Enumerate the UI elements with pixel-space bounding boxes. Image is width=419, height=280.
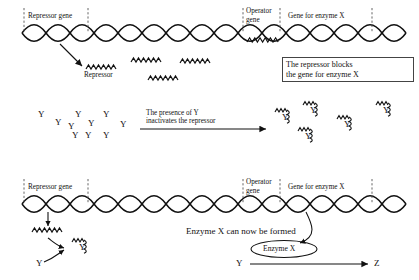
label-complex-y-bottom: Y [79, 243, 86, 252]
label-repressor-top: Repressor [84, 72, 113, 80]
free-y-molecule: Y [55, 118, 62, 127]
label-gene-for-enzyme-x-bottom: Gene for enzyme X [288, 184, 344, 192]
dna-helix-top [22, 25, 406, 42]
free-y-molecule: Y [85, 131, 92, 140]
diagram-canvas: Repressor gene Operator gene Gene for en… [0, 0, 419, 280]
complex-y-label: Y [305, 132, 312, 141]
enzyme-formation-arrow [300, 212, 312, 243]
free-repressor-3 [180, 59, 210, 63]
free-y-molecule: Y [103, 131, 110, 140]
caption-enzyme-x-formed: Enzyme X can now be formed [186, 228, 296, 236]
free-y-molecule: Y [38, 110, 45, 119]
label-repressor-gene-top: Repressor gene [28, 13, 72, 21]
inactivated-complex-icons [275, 102, 390, 143]
free-y-molecule: Y [88, 119, 95, 128]
complex-y-label: Y [310, 106, 317, 115]
reaction-substrate-label: Y [236, 259, 243, 268]
label-operator-gene-top-line1: Operator [246, 8, 272, 16]
dna-helix-bottom [22, 196, 406, 213]
label-operator-gene-bottom-line2: gene [246, 188, 260, 196]
repressor-bound-operator-icon [247, 38, 278, 42]
binding-arrows-bottom [44, 238, 64, 262]
free-repressor-2 [131, 58, 161, 62]
free-y-molecule: Y [120, 120, 127, 129]
callout-repressor-blocks: The repressor blocks the gene for enzyme… [282, 57, 414, 82]
free-y-molecule: Y [103, 110, 110, 119]
enzyme-x-bubble-label: Enzyme X [263, 245, 295, 253]
complex-y-label: Y [344, 120, 351, 129]
arrow-caption-line-2: inactivates the repressor [146, 118, 215, 126]
label-repressor-gene-bottom: Repressor gene [28, 184, 72, 192]
repressor-production-arrow [60, 44, 82, 66]
label-gene-for-enzyme-x-top: Gene for enzyme X [288, 13, 344, 21]
callout-line-2: the gene for enzyme X [286, 70, 410, 80]
binding-arrow-from-y [44, 250, 64, 262]
complex-y-label: Y [282, 113, 289, 122]
label-operator-gene-bottom-line1: Operator [246, 179, 272, 187]
callout-line-1: The repressor blocks [286, 60, 410, 70]
free-y-molecule: Y [72, 131, 79, 140]
free-y-molecule: Y [75, 110, 82, 119]
diagram-vector-layer [0, 0, 419, 280]
free-repressor-icon-bottom [32, 228, 62, 232]
free-repressor-1 [86, 65, 116, 69]
binding-arrow-from-repressor [48, 238, 64, 248]
complex-y-label: Y [383, 106, 390, 115]
free-repressor-4 [148, 76, 178, 80]
label-y-free-bottom: Y [36, 259, 43, 268]
reaction-product-label: Z [374, 259, 380, 268]
label-operator-gene-top-line2: gene [246, 17, 260, 25]
